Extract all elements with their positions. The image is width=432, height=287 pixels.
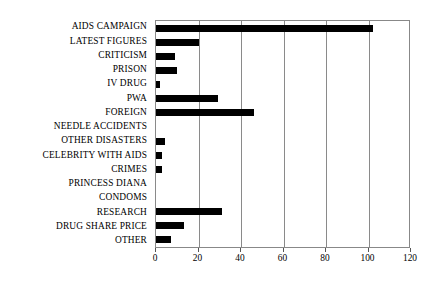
bar — [156, 166, 162, 173]
category-label: RESEARCH — [0, 205, 152, 219]
category-label: PRINCESS DIANA — [0, 177, 152, 191]
bar — [156, 222, 184, 229]
bar — [156, 138, 165, 145]
x-tick-label: 80 — [320, 254, 329, 263]
x-tick-label: 20 — [193, 254, 202, 263]
category-label: CONDOMS — [0, 191, 152, 205]
bar — [156, 208, 222, 215]
category-label: PRISON — [0, 63, 152, 77]
bar — [156, 53, 175, 60]
category-label: LATEST FIGURES — [0, 34, 152, 48]
bar-slot — [156, 49, 409, 63]
bar-slot — [156, 120, 409, 134]
category-label: FOREIGN — [0, 106, 152, 120]
bar — [156, 95, 218, 102]
x-tick-mark — [155, 248, 156, 252]
category-label: NEEDLE ACCIDENTS — [0, 120, 152, 134]
x-tick-label: 60 — [278, 254, 287, 263]
x-tick-label: 100 — [360, 254, 374, 263]
x-tick-mark — [410, 248, 411, 252]
bar — [156, 39, 199, 46]
x-tick-mark — [368, 248, 369, 252]
plot-area — [155, 20, 410, 248]
category-label: IV DRUG — [0, 77, 152, 91]
category-label: CRITICISM — [0, 49, 152, 63]
bar-slot — [156, 134, 409, 148]
bar-slot — [156, 78, 409, 92]
x-axis: 020406080100120 — [155, 248, 410, 278]
bar-slot — [156, 92, 409, 106]
x-tick-label: 0 — [153, 254, 158, 263]
bar-slot — [156, 35, 409, 49]
category-label: PWA — [0, 91, 152, 105]
x-tick-mark — [283, 248, 284, 252]
bar-slot — [156, 205, 409, 219]
bar-slot — [156, 148, 409, 162]
bar-slot — [156, 176, 409, 190]
bar-chart: AIDS CAMPAIGNLATEST FIGURESCRITICISMPRIS… — [0, 0, 432, 287]
bar-slot — [156, 21, 409, 35]
bar-slot — [156, 106, 409, 120]
category-label: OTHER — [0, 234, 152, 248]
category-axis: AIDS CAMPAIGNLATEST FIGURESCRITICISMPRIS… — [0, 20, 152, 248]
x-tick-mark — [198, 248, 199, 252]
bar-slot — [156, 233, 409, 247]
bar — [156, 109, 254, 116]
bar — [156, 25, 373, 32]
category-label: DRUG SHARE PRICE — [0, 220, 152, 234]
category-label: CELEBRITY WITH AIDS — [0, 148, 152, 162]
x-tick-label: 40 — [235, 254, 244, 263]
category-label: CRIMES — [0, 163, 152, 177]
category-label: OTHER DISASTERS — [0, 134, 152, 148]
bar-slot — [156, 219, 409, 233]
bar — [156, 236, 171, 243]
bar — [156, 81, 160, 88]
bar — [156, 67, 177, 74]
x-tick-mark — [240, 248, 241, 252]
x-tick-label: 120 — [403, 254, 417, 263]
bar-slot — [156, 63, 409, 77]
bar-slot — [156, 162, 409, 176]
bars-layer — [156, 21, 409, 247]
x-tick-mark — [325, 248, 326, 252]
bar — [156, 152, 162, 159]
category-label: AIDS CAMPAIGN — [0, 20, 152, 34]
bar-slot — [156, 191, 409, 205]
